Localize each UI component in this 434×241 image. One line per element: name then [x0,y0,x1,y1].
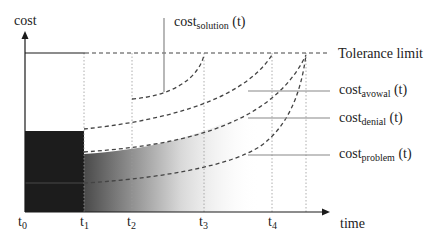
label-tolerance-limit: Tolerance limit [338,46,423,62]
label-cost-problem: costproblem (t) [339,146,412,162]
x-axis-arrow-icon [322,209,330,216]
tick-t2: t2 [127,214,136,230]
tick-t4: t4 [268,214,277,230]
label-cost-solution: costsolution (t) [174,14,246,30]
tick-t1: t1 [80,214,89,230]
curve-solution [132,55,204,99]
y-axis-arrow-icon [22,31,29,39]
y-axis-label: cost [14,13,37,29]
tick-t3: t3 [199,214,208,230]
x-axis-label: time [340,216,365,232]
initial-problem-region [25,131,84,212]
label-cost-denial: costdenial (t) [339,110,403,126]
tick-t0: t0 [18,214,27,230]
label-cost-avowal: costavowal (t) [339,82,407,98]
